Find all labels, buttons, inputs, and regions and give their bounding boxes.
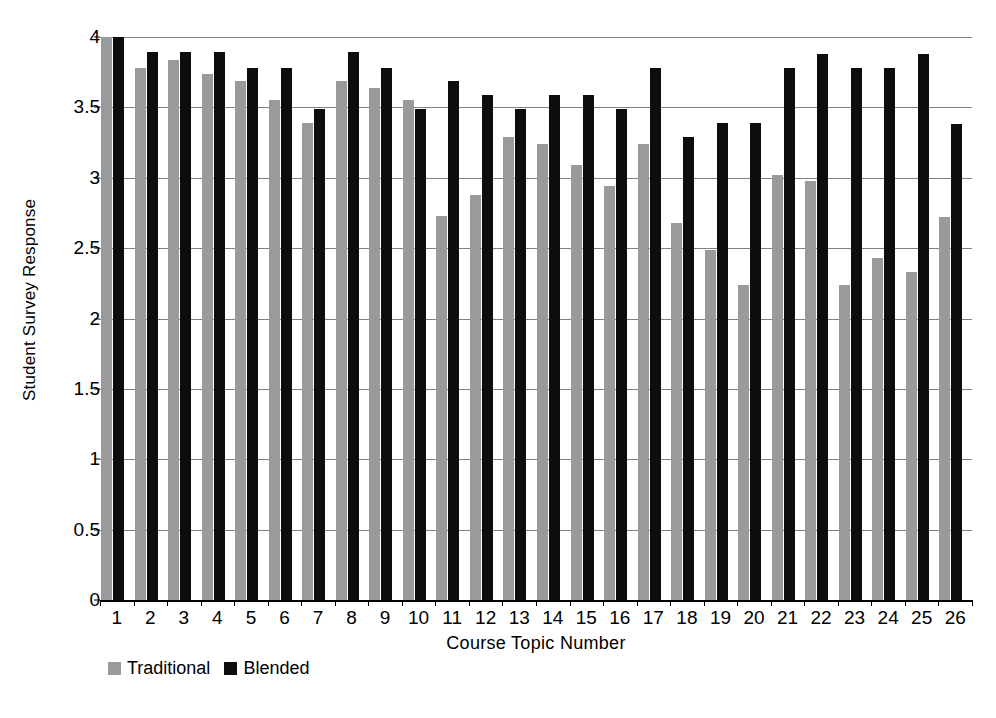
bar-traditional bbox=[939, 217, 950, 600]
x-tick-label: 18 bbox=[676, 607, 697, 629]
x-tick-label: 9 bbox=[380, 607, 391, 629]
bar-group bbox=[470, 37, 504, 600]
legend-item[interactable]: Traditional bbox=[108, 658, 210, 679]
x-tick-label: 13 bbox=[509, 607, 530, 629]
bar-blended bbox=[717, 123, 728, 600]
bar-blended bbox=[784, 68, 795, 600]
x-tick-label: 1 bbox=[111, 607, 122, 629]
bar-blended bbox=[583, 95, 594, 600]
x-tick-label: 15 bbox=[576, 607, 597, 629]
x-tick-mark bbox=[100, 600, 101, 606]
bar-blended bbox=[113, 37, 124, 600]
x-tick-label: 3 bbox=[179, 607, 190, 629]
x-tick-mark bbox=[536, 600, 537, 606]
x-tick-mark bbox=[301, 600, 302, 606]
bar-traditional bbox=[839, 285, 850, 600]
bar-group bbox=[403, 37, 437, 600]
x-tick-mark bbox=[637, 600, 638, 606]
bar-blended bbox=[549, 95, 560, 600]
bar-traditional bbox=[369, 88, 380, 600]
bar-traditional bbox=[302, 123, 313, 600]
x-tick-label: 7 bbox=[313, 607, 324, 629]
x-tick-mark bbox=[871, 600, 872, 606]
bar-group bbox=[503, 37, 537, 600]
x-tick-label: 25 bbox=[911, 607, 932, 629]
x-tick-mark bbox=[603, 600, 604, 606]
x-tick-label: 12 bbox=[475, 607, 496, 629]
plot-area bbox=[100, 37, 972, 600]
bar-blended bbox=[951, 124, 962, 600]
x-tick-mark bbox=[335, 600, 336, 606]
bar-group bbox=[436, 37, 470, 600]
bar-blended bbox=[314, 109, 325, 600]
bar-group bbox=[235, 37, 269, 600]
bar-blended bbox=[918, 54, 929, 600]
bar-blended bbox=[884, 68, 895, 600]
bar-traditional bbox=[805, 181, 816, 600]
x-tick-label: 21 bbox=[777, 607, 798, 629]
bar-group bbox=[705, 37, 739, 600]
bar-blended bbox=[381, 68, 392, 600]
x-axis-ticks: 1234567891011121314151617181920212223242… bbox=[100, 600, 972, 634]
bar-traditional bbox=[705, 250, 716, 600]
legend-label: Traditional bbox=[127, 658, 210, 679]
x-tick-label: 2 bbox=[145, 607, 156, 629]
legend-label: Blended bbox=[243, 658, 309, 679]
x-tick-mark bbox=[570, 600, 571, 606]
bar-blended bbox=[448, 81, 459, 600]
bar-group bbox=[571, 37, 605, 600]
bar-group bbox=[101, 37, 135, 600]
bar-traditional bbox=[906, 272, 917, 600]
bar-blended bbox=[348, 52, 359, 600]
bar-group bbox=[872, 37, 906, 600]
x-tick-label: 17 bbox=[643, 607, 664, 629]
chart-legend: TraditionalBlended bbox=[108, 658, 309, 679]
x-tick-label: 6 bbox=[279, 607, 290, 629]
x-tick-mark bbox=[804, 600, 805, 606]
bar-traditional bbox=[772, 175, 783, 600]
x-tick-mark bbox=[368, 600, 369, 606]
bar-blended bbox=[683, 137, 694, 600]
x-tick-mark bbox=[771, 600, 772, 606]
x-tick-label: 14 bbox=[542, 607, 563, 629]
bar-traditional bbox=[135, 68, 146, 600]
bar-traditional bbox=[571, 165, 582, 600]
bar-group bbox=[738, 37, 772, 600]
bar-traditional bbox=[336, 81, 347, 600]
bar-blended bbox=[616, 109, 627, 600]
x-tick-mark bbox=[737, 600, 738, 606]
bar-group bbox=[772, 37, 806, 600]
bar-traditional bbox=[671, 223, 682, 600]
x-tick-mark bbox=[402, 600, 403, 606]
bar-traditional bbox=[436, 216, 447, 600]
bar-traditional bbox=[470, 195, 481, 600]
bar-group bbox=[537, 37, 571, 600]
bar-traditional bbox=[168, 60, 179, 600]
bar-blended bbox=[750, 123, 761, 600]
x-axis-title: Course Topic Number bbox=[100, 633, 972, 654]
x-tick-mark bbox=[469, 600, 470, 606]
bar-blended bbox=[180, 52, 191, 600]
x-tick-mark bbox=[435, 600, 436, 606]
x-tick-mark bbox=[704, 600, 705, 606]
bar-traditional bbox=[101, 37, 112, 600]
x-tick-mark bbox=[502, 600, 503, 606]
bar-chart: Student Survey Response 00.511.522.533.5… bbox=[0, 0, 996, 718]
x-tick-mark bbox=[670, 600, 671, 606]
x-tick-mark bbox=[905, 600, 906, 606]
bar-group bbox=[805, 37, 839, 600]
bar-blended bbox=[515, 109, 526, 600]
bar-blended bbox=[247, 68, 258, 600]
bar-blended bbox=[650, 68, 661, 600]
y-axis-title: Student Survey Response bbox=[10, 0, 50, 600]
bar-group bbox=[839, 37, 873, 600]
bar-traditional bbox=[202, 74, 213, 600]
legend-item[interactable]: Blended bbox=[224, 658, 309, 679]
x-axis-title-text: Course Topic Number bbox=[446, 633, 625, 653]
bar-traditional bbox=[403, 100, 414, 600]
legend-swatch-icon bbox=[224, 662, 237, 675]
x-tick-mark bbox=[134, 600, 135, 606]
bar-blended bbox=[817, 54, 828, 600]
bars-layer bbox=[100, 37, 972, 600]
legend-swatch-icon bbox=[108, 662, 121, 675]
